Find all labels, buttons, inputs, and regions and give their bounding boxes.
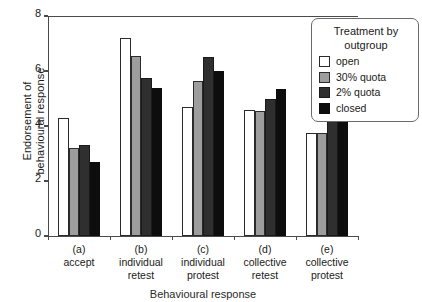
- legend-swatch: [319, 87, 330, 98]
- bar: [244, 110, 255, 237]
- x-axis-title: Behavioural response: [48, 288, 358, 301]
- legend-label: 30% quota: [336, 72, 386, 83]
- bar: [203, 57, 214, 236]
- y-tick-label: 8: [35, 8, 41, 19]
- x-category-name: collective protest: [291, 256, 363, 282]
- legend-item-open: open: [319, 56, 413, 68]
- bar: [131, 56, 142, 236]
- bar-group: [172, 16, 234, 236]
- bar: [193, 81, 204, 236]
- legend-title: Treatment by outgroup: [319, 25, 413, 52]
- legend: Treatment by outgroup open30% quota2% qu…: [311, 18, 419, 122]
- x-tick-mark: [48, 236, 49, 240]
- x-tick-mark: [234, 236, 235, 240]
- y-tick-label: 4: [35, 118, 41, 129]
- legend-item-30-quota: 30% quota: [319, 71, 413, 83]
- legend-items: open30% quota2% quotaclosed: [319, 56, 413, 115]
- x-tick-mark: [172, 236, 173, 240]
- x-tick-mark: [296, 236, 297, 240]
- legend-label: 2% quota: [336, 87, 380, 98]
- legend-item-closed: closed: [319, 102, 413, 114]
- bar: [306, 133, 317, 236]
- y-tick-label: 6: [35, 63, 41, 74]
- bar: [182, 107, 193, 236]
- legend-swatch: [319, 103, 330, 114]
- legend-label: open: [336, 56, 359, 67]
- bar-group: [234, 16, 296, 236]
- bar: [152, 88, 163, 237]
- x-tick-mark: [358, 236, 359, 240]
- bar: [69, 148, 80, 236]
- bar-group: [110, 16, 172, 236]
- legend-swatch: [319, 56, 330, 67]
- x-category-key: (e): [291, 243, 363, 256]
- legend-label: closed: [336, 103, 366, 114]
- y-tick-label: 2: [35, 173, 41, 184]
- legend-item-2-quota: 2% quota: [319, 87, 413, 99]
- bar-group: [48, 16, 110, 236]
- bar: [276, 89, 287, 236]
- legend-swatch: [319, 72, 330, 83]
- bar: [90, 162, 101, 236]
- bar: [79, 145, 90, 236]
- bar: [265, 99, 276, 237]
- bar: [214, 71, 225, 236]
- bar: [141, 78, 152, 236]
- bar: [327, 107, 338, 236]
- bar-chart: Endorsement of behavioural response 0246…: [0, 0, 422, 302]
- x-axis-line: [48, 236, 358, 237]
- bar: [120, 38, 131, 236]
- x-tick-mark: [110, 236, 111, 240]
- bar: [255, 111, 266, 236]
- x-category-e: (e)collective protest: [291, 243, 363, 282]
- y-tick-label: 0: [35, 228, 41, 239]
- bar: [317, 133, 328, 236]
- bar: [58, 118, 69, 236]
